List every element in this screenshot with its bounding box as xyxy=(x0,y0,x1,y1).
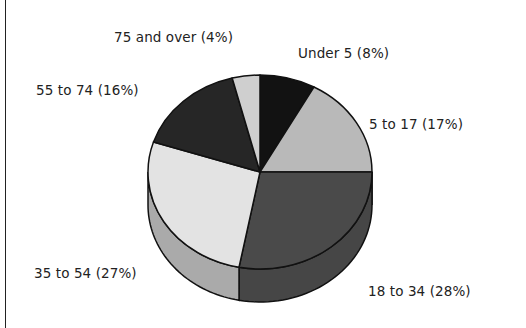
label-75-and-over: 75 and over (4%) xyxy=(114,29,233,45)
label-55-to-74: 55 to 74 (16%) xyxy=(36,82,139,98)
label-18-to-34: 18 to 34 (28%) xyxy=(368,283,471,299)
label-5-to-17: 5 to 17 (17%) xyxy=(369,116,463,132)
label-35-to-54: 35 to 54 (27%) xyxy=(34,265,137,281)
label-under-5: Under 5 (8%) xyxy=(298,45,389,61)
